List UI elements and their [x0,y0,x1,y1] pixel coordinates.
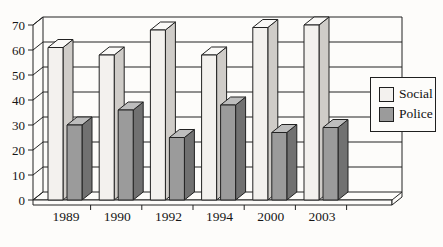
bar-side-face [287,125,297,201]
y-tick-label: 50 [12,68,25,83]
bar-side-face [133,102,143,200]
bar-police-2000 [272,125,297,201]
y-tick-depth [33,67,43,75]
bar-side-face [236,97,246,200]
y-tick-label: 40 [12,93,25,108]
y-tick-depth [33,117,43,125]
legend-label-police: Police [399,107,433,121]
bar-front-face [169,138,184,201]
bar-front-face [272,133,287,201]
legend-item-police: Police [379,104,435,124]
x-category-label: 2003 [309,209,336,224]
legend-label-social: Social [399,87,433,101]
x-category-label: 1990 [104,209,131,224]
bar-front-face [150,30,165,200]
bar-side-face [338,120,348,201]
y-tick-depth [33,167,43,175]
chart-legend: Social Police [370,77,436,132]
y-tick-depth [33,17,43,25]
bar-police-1992 [169,130,194,201]
bar-front-face [67,125,82,200]
y-tick-depth [33,192,43,200]
bar-front-face [118,110,133,200]
legend-swatch-social-icon [379,87,394,102]
y-tick-label: 70 [12,18,25,33]
bar-front-face [48,48,63,201]
bar-police-1990 [118,102,143,200]
x-category-label: 1994 [206,209,233,224]
x-category-label: 1989 [53,209,80,224]
floor-slab-front [33,200,392,205]
y-tick-depth [33,142,43,150]
bar-front-face [221,105,236,200]
x-category-label: 1992 [155,209,182,224]
bar-front-face [323,128,338,201]
y-tick-label: 0 [19,193,26,208]
legend-item-social: Social [379,84,435,104]
bar-front-face [253,28,268,201]
bar-front-face [304,25,319,200]
floor-slab-side [392,192,402,205]
y-tick-label: 30 [12,118,25,133]
bar-front-face [99,55,114,200]
bar-side-face [184,130,194,201]
x-category-label: 2000 [257,209,284,224]
bar-front-face [202,55,217,200]
y-tick-label: 20 [12,143,25,158]
y-tick-depth [33,92,43,100]
y-tick-label: 60 [12,43,25,58]
legend-swatch-police-icon [379,107,394,122]
bar-police-1994 [221,97,246,200]
bar-side-face [82,117,92,200]
bar-police-2003 [323,120,348,201]
bar-police-1989 [67,117,92,200]
y-tick-label: 10 [12,168,25,183]
chart-figure: 010203040506070198919901992199420002003 … [0,0,443,247]
y-tick-depth [33,42,43,50]
